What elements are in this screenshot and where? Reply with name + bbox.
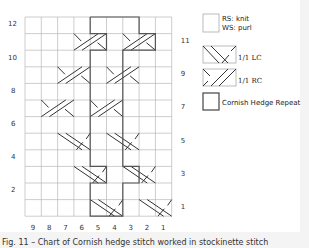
legend-knit-label: RS: knit WS: purl — [222, 15, 252, 33]
row-number-left: 2 — [11, 186, 15, 194]
lc-cable-icon — [168, 200, 172, 206]
legend-repeat-swatch — [203, 93, 219, 110]
lc-cable-icon — [102, 166, 106, 172]
row-number-right: 7 — [181, 103, 185, 111]
row-number-left: 4 — [11, 153, 15, 161]
rc-cable-icon — [65, 109, 74, 116]
row-number-left: 8 — [11, 87, 15, 95]
rc-cable-icon — [81, 76, 90, 83]
column-number: 6 — [80, 224, 84, 232]
row-number-right: 11 — [181, 37, 190, 45]
rc-cable-icon — [130, 76, 139, 83]
rc-cable-icon — [123, 34, 130, 41]
row-number-right: 5 — [181, 137, 185, 145]
rc-cable-icon — [58, 67, 65, 74]
row-number-right: 9 — [181, 70, 185, 78]
lc-cable-icon — [151, 166, 155, 172]
column-number: 3 — [128, 224, 132, 232]
legend-knit-swatch — [203, 14, 219, 32]
column-number: 4 — [112, 224, 116, 232]
lc-cable-icon — [135, 133, 139, 139]
row-number-left: 12 — [8, 20, 17, 28]
legend-rc-label: 1/1 RC — [238, 77, 262, 86]
legend-repeat-label: Cornish Hedge Repeat — [222, 99, 300, 108]
column-number: 5 — [96, 224, 100, 232]
row-number-left: 6 — [11, 120, 15, 128]
column-number: 9 — [31, 224, 35, 232]
lc-cable-icon — [86, 133, 90, 139]
rc-cable-icon — [114, 109, 123, 116]
rc-cable-icon — [146, 43, 155, 50]
column-number: 2 — [145, 224, 149, 232]
rc-cable-icon — [98, 43, 107, 50]
row-number-right: 1 — [181, 203, 185, 211]
row-number-right: 3 — [181, 170, 185, 178]
column-number: 1 — [161, 224, 165, 232]
rc-cable-icon — [41, 100, 48, 107]
column-number: 8 — [47, 224, 51, 232]
rc-cable-icon — [74, 34, 81, 41]
lc-cable-icon — [119, 200, 123, 206]
knitting-chart — [0, 0, 309, 248]
figure-caption: Fig. 11 – Chart of Cornish hedge stitch … — [2, 238, 268, 247]
rc-cable-icon — [107, 67, 114, 74]
column-number: 7 — [63, 224, 67, 232]
legend-lc-label: 1/1 LC — [238, 54, 262, 63]
row-number-left: 10 — [8, 54, 17, 62]
rc-cable-icon — [90, 100, 97, 107]
